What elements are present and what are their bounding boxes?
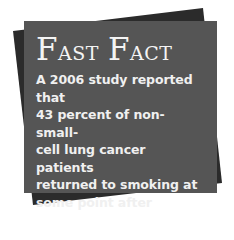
body-line: cell lung cancer patients <box>36 142 145 175</box>
body-line: returned to smoking at <box>36 177 197 192</box>
title-initial-2: F <box>108 31 130 67</box>
fast-fact-callout: Fast Fact A 2006 study reported that 43 … <box>24 21 217 193</box>
callout-title: Fast Fact <box>36 33 205 67</box>
title-rest-1: ast <box>58 35 99 66</box>
title-rest-2: act <box>130 35 172 66</box>
title-initial-1: F <box>36 31 58 67</box>
body-line: 43 percent of non-small- <box>36 107 165 140</box>
callout-body: A 2006 study reported that 43 percent of… <box>36 71 205 210</box>
body-line: A 2006 study reported that <box>36 72 193 105</box>
body-line: some point after surgery <box>36 195 152 211</box>
